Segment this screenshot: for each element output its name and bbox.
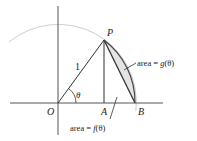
label-O: O (47, 106, 54, 117)
unit-circle-diagram: P O A B 1 θ area = g(θ) area = f(θ) (0, 0, 197, 141)
label-radius-1: 1 (75, 61, 80, 72)
label-B: B (138, 106, 144, 117)
annotation-g-prefix: area = (137, 58, 160, 68)
label-A: A (100, 106, 108, 117)
label-P: P (106, 27, 113, 38)
annotation-f-prefix: area = (70, 123, 93, 133)
angle-theta-arc (69, 89, 76, 104)
annotation-f-arg: (θ) (96, 123, 106, 133)
label-theta: θ (76, 90, 81, 100)
annotation-g-arg: (θ) (164, 58, 174, 68)
annotation-area-f: area = f(θ) (70, 123, 105, 133)
annotation-area-g: area = g(θ) (137, 58, 174, 68)
radius-OP (58, 40, 104, 103)
leader-f (110, 97, 117, 119)
